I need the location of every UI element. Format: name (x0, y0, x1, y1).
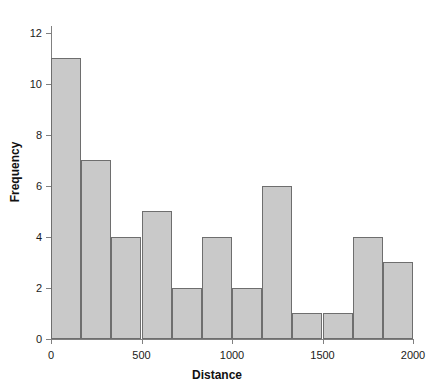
histogram-bar (262, 186, 292, 339)
histogram-bar (142, 211, 172, 339)
histogram-bar (232, 288, 262, 339)
x-tick-0 (51, 339, 52, 344)
y-tick-label-2: 2 (36, 281, 42, 295)
y-axis-title: Frequency (6, 0, 24, 392)
x-tick-1500 (323, 339, 324, 344)
histogram-bar (202, 237, 232, 339)
plot-area: 024681012 0500100015002000 (51, 20, 413, 339)
histogram-bar (353, 237, 383, 339)
y-axis-title-label: Frequency (8, 142, 22, 203)
histogram-bar (81, 160, 111, 339)
x-axis-title: Distance (0, 368, 434, 382)
y-tick-label-0: 0 (36, 332, 42, 346)
x-tick-label-0: 0 (48, 348, 54, 362)
histogram-bar (111, 237, 141, 339)
x-tick-label-500: 500 (132, 348, 150, 362)
x-tick-500 (142, 339, 143, 344)
x-tick-label-2000: 2000 (401, 348, 425, 362)
y-tick-label-8: 8 (36, 128, 42, 142)
histogram-bar (383, 262, 413, 339)
histogram-figure: Frequency Distance 024681012 05001000150… (0, 0, 434, 392)
y-tick-label-12: 12 (30, 26, 42, 40)
y-tick-label-6: 6 (36, 179, 42, 193)
y-tick-label-10: 10 (30, 77, 42, 91)
histogram-bar (172, 288, 202, 339)
histogram-bar (292, 313, 322, 339)
x-tick-1000 (232, 339, 233, 344)
y-tick-label-4: 4 (36, 230, 42, 244)
histogram-bar (323, 313, 353, 339)
y-tick-12: 12 (46, 33, 51, 34)
histogram-bar (51, 58, 81, 339)
x-tick-2000 (413, 339, 414, 344)
x-tick-label-1000: 1000 (220, 348, 244, 362)
x-tick-label-1500: 1500 (310, 348, 334, 362)
